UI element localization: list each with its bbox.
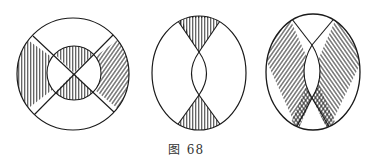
caption-prefix: 图 [168, 143, 181, 157]
figure-canvas [0, 0, 372, 162]
center-lens [192, 52, 207, 95]
panel-right-ellipse [266, 14, 362, 135]
panel-middle-ellipse [152, 10, 246, 140]
figure-caption: 图68 [0, 140, 372, 157]
panel-left-circle [0, 15, 150, 135]
caption-number: 68 [187, 143, 204, 157]
